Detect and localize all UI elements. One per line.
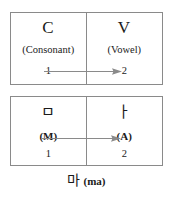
schema-vowel-index: 2 — [122, 66, 127, 77]
example-consonant-jamo: ㅁ — [41, 105, 56, 120]
example-box: ㅁ (M) 1 ㅏ (A) 2 — [10, 96, 163, 166]
schema-consonant-cell: C (Consonant) 1 — [11, 13, 87, 84]
caption-romanization: (ma) — [84, 175, 106, 187]
example-consonant-index: 1 — [46, 149, 51, 160]
schema-consonant-symbol: C — [42, 19, 54, 36]
schema-consonant-index: 1 — [46, 66, 51, 77]
example-consonant-cell: ㅁ (M) 1 — [11, 97, 87, 165]
schema-vowel-cell: V (Vowel) 2 — [87, 13, 163, 84]
schema-vowel-label: (Vowel) — [107, 45, 141, 56]
caption-syllable: 마 — [67, 173, 80, 188]
example-vowel-label: (A) — [117, 131, 132, 142]
schema-box: C (Consonant) 1 V (Vowel) 2 — [10, 12, 163, 85]
example-vowel-cell: ㅏ (A) 2 — [87, 97, 163, 165]
example-vowel-index: 2 — [122, 149, 127, 160]
schema-consonant-label: (Consonant) — [22, 45, 74, 56]
example-vowel-jamo: ㅏ — [117, 105, 132, 120]
syllable-caption: 마(ma) — [0, 174, 172, 188]
syllable-structure-diagram: C (Consonant) 1 V (Vowel) 2 ㅁ (M) 1 ㅏ (A… — [0, 0, 172, 204]
schema-vowel-symbol: V — [118, 19, 131, 36]
example-consonant-label: (M) — [39, 131, 57, 142]
